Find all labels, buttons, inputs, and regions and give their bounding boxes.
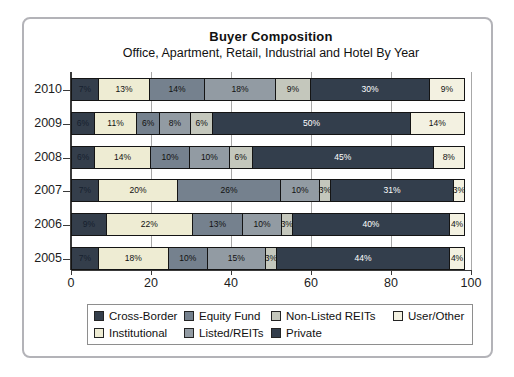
legend-item-institutional: Institutional (94, 326, 167, 339)
legend-label: User/Other (408, 310, 464, 322)
y-axis-category-label: 2010 (18, 82, 62, 96)
y-axis-category-label: 2008 (18, 150, 62, 164)
bar-segment: 14% (94, 146, 151, 169)
bar-segment: 7% (71, 247, 99, 270)
bar-segment: 9% (429, 78, 465, 101)
bar-row-2007: 7%20%26%10%3%31%3% (71, 179, 471, 202)
chart-title: Buyer Composition (71, 29, 471, 44)
bar-segment-label: 6% (235, 153, 247, 162)
bar-segment: 22% (106, 213, 193, 236)
bar-segment-label: 13% (209, 220, 226, 229)
legend-swatch (94, 328, 104, 338)
bar-segment: 8% (159, 112, 191, 135)
bar-segment: 30% (310, 78, 430, 101)
bar-segment-label: 10% (161, 153, 178, 162)
legend-label: Non-Listed REITs (286, 310, 375, 322)
bar-row-2006: 9%22%13%10%3%40%4% (71, 213, 471, 236)
bar-segment: 18% (98, 247, 169, 270)
legend-label: Institutional (109, 327, 167, 339)
bar-segment: 3% (453, 179, 465, 202)
legend-label: Cross-Border (109, 310, 177, 322)
bar-segment: 7% (71, 78, 99, 101)
bar-segment-label: 4% (451, 220, 463, 229)
bar-segment-label: 26% (220, 186, 237, 195)
bar-segment-label: 15% (228, 254, 245, 263)
y-axis-category-label: 2005 (18, 251, 62, 265)
bar-segment: 10% (242, 213, 282, 236)
bar-segment: 6% (71, 146, 95, 169)
bar-segment: 7% (71, 179, 99, 202)
x-axis-tick-label: 0 (51, 276, 91, 290)
bar-segment-label: 6% (77, 119, 89, 128)
bar-segment-label: 20% (129, 186, 146, 195)
x-axis-tick (151, 270, 152, 275)
legend-swatch (271, 328, 281, 338)
bar-segment: 4% (449, 247, 465, 270)
bar-row-2005: 7%18%10%15%3%44%4% (71, 247, 471, 270)
bar-segment-label: 8% (169, 119, 181, 128)
legend-item-non-listed-reits: Non-Listed REITs (271, 309, 375, 322)
bar-segment-label: 40% (362, 220, 379, 229)
legend-label: Listed/REITs (199, 327, 264, 339)
y-axis-tick (63, 124, 70, 125)
bar-segment: 6% (71, 112, 95, 135)
legend-swatch (94, 311, 104, 321)
bar-segment: 40% (292, 213, 450, 236)
y-axis-tick (63, 158, 70, 159)
bar-row-2010: 7%13%14%18%9%30%9% (71, 78, 471, 101)
bar-segment: 10% (280, 179, 320, 202)
bar-segment-label: 7% (79, 85, 91, 94)
bar-segment: 9% (275, 78, 311, 101)
x-axis-tick-label: 100 (451, 276, 491, 290)
bar-segment-label: 10% (201, 153, 218, 162)
y-axis-tick (63, 90, 70, 91)
bar-segment-label: 9% (83, 220, 95, 229)
gridline-x60 (311, 72, 312, 270)
legend-swatch (184, 311, 194, 321)
bar-segment: 6% (136, 112, 160, 135)
bar-segment-label: 13% (115, 85, 132, 94)
bar-segment: 50% (212, 112, 410, 135)
legend-item-listed-reits: Listed/REITs (184, 326, 264, 339)
legend-item-equity-fund: Equity Fund (184, 309, 260, 322)
bar-segment-label: 6% (77, 153, 89, 162)
bar-segment: 6% (190, 112, 214, 135)
y-axis-tick (63, 259, 70, 260)
bar-segment-label: 9% (441, 85, 453, 94)
legend-label: Equity Fund (199, 310, 260, 322)
x-axis-tick-label: 20 (131, 276, 171, 290)
chart-subtitle: Office, Apartment, Retail, Industrial an… (51, 46, 491, 60)
x-axis-tick-label: 80 (371, 276, 411, 290)
legend-item-user-other: User/Other (393, 309, 464, 322)
x-axis-tick-label: 40 (211, 276, 251, 290)
x-axis-tick (231, 270, 232, 275)
bar-segment: 13% (98, 78, 150, 101)
bar-segment: 45% (252, 146, 434, 169)
x-axis-tick (391, 270, 392, 275)
bar-segment: 8% (433, 146, 465, 169)
gridline-x40 (231, 72, 232, 270)
y-axis-tick (63, 225, 70, 226)
bar-segment-label: 18% (231, 85, 248, 94)
bar-segment-label: 14% (114, 153, 131, 162)
gridline-x80 (391, 72, 392, 270)
bar-segment-label: 22% (141, 220, 158, 229)
y-axis-category-label: 2006 (18, 217, 62, 231)
legend-item-cross-border: Cross-Border (94, 309, 177, 322)
legend-label: Private (286, 327, 322, 339)
bar-segment: 20% (98, 179, 178, 202)
bar-segment: 10% (189, 146, 229, 169)
bar-segment-label: 7% (79, 254, 91, 263)
legend-swatch (184, 328, 194, 338)
legend-item-private: Private (271, 326, 322, 339)
bar-row-2009: 6%11%6%8%6%50%14% (71, 112, 471, 135)
bar-segment: 44% (276, 247, 450, 270)
bar-segment-label: 3% (453, 186, 465, 195)
bar-segment-label: 31% (383, 186, 400, 195)
x-axis-tick-label: 60 (291, 276, 331, 290)
bar-segment-label: 10% (179, 254, 196, 263)
x-axis-tick (71, 270, 72, 275)
bar-segment-label: 9% (287, 85, 299, 94)
bar-segment-label: 45% (334, 153, 351, 162)
legend-swatch (393, 311, 403, 321)
